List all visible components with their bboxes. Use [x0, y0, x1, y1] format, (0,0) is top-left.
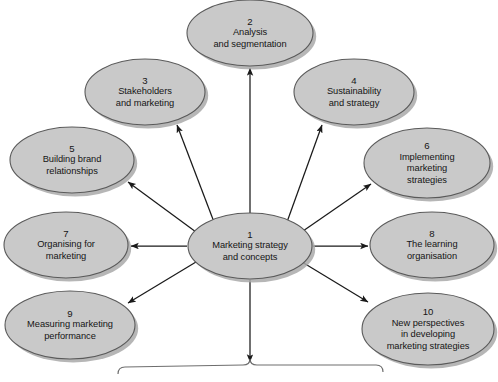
arrow-center-to-node-3	[177, 125, 214, 222]
node-6-shape[interactable]	[364, 128, 490, 198]
node-4-shape[interactable]	[294, 59, 414, 125]
node-3-shape[interactable]	[85, 59, 205, 125]
arrow-center-to-node-5	[128, 182, 196, 232]
hub-and-spoke-diagram: 2Analysisand segmentation3Stakeholdersan…	[0, 0, 498, 382]
arrow-center-to-node-9	[128, 262, 196, 303]
arrow-center-to-node-10	[302, 262, 368, 302]
node-2-shape[interactable]	[187, 0, 313, 66]
node-5-shape[interactable]	[10, 127, 134, 193]
node-8-shape[interactable]	[370, 212, 494, 278]
brace-layer	[118, 359, 383, 374]
summary-brace	[118, 359, 383, 374]
arrow-center-to-node-6	[303, 184, 371, 231]
node-1-shape[interactable]	[188, 213, 312, 279]
node-7-shape[interactable]	[4, 212, 128, 278]
node-10-shape[interactable]	[362, 293, 494, 365]
diagram-canvas	[0, 0, 498, 382]
arrow-center-to-node-4	[287, 125, 322, 222]
node-9-shape[interactable]	[5, 291, 135, 359]
